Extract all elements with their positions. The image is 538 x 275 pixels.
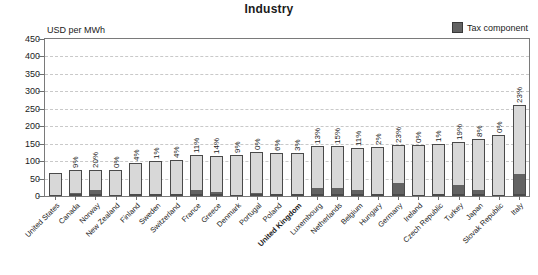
x-label-slot: Sweden bbox=[146, 199, 166, 271]
bar[interactable]: 8% bbox=[472, 139, 485, 196]
bar-slot: 6% bbox=[267, 39, 287, 196]
bar[interactable]: 15% bbox=[331, 146, 344, 196]
y-axis-tick-label: 300 bbox=[14, 86, 40, 96]
y-axis-tick-mark bbox=[38, 56, 44, 57]
x-label-slot: Czech Republic bbox=[428, 199, 448, 271]
x-axis-tick-mark bbox=[277, 196, 278, 200]
bar[interactable]: 3% bbox=[291, 153, 304, 196]
bar-tax-share-label: 0% bbox=[252, 138, 261, 150]
bar-slot: 20% bbox=[85, 39, 105, 196]
bar[interactable]: 4% bbox=[129, 163, 142, 196]
bar-tax-share-label: 15% bbox=[333, 128, 342, 144]
bar-tax-share-label: 11% bbox=[353, 130, 362, 145]
industry-energy-price-chart: Industry USD per MWh Tax component 05010… bbox=[0, 0, 538, 275]
x-axis-tick-mark bbox=[75, 196, 76, 200]
bar-tax-share-label: 23% bbox=[394, 127, 403, 143]
page-title: Industry bbox=[0, 2, 538, 16]
y-axis-tick-mark bbox=[38, 144, 44, 145]
x-label-slot: Luxembourg bbox=[307, 199, 327, 271]
bar-slot: 19% bbox=[448, 39, 468, 196]
bar-slot bbox=[45, 39, 65, 196]
bar-tax-segment bbox=[211, 192, 222, 195]
bar[interactable]: 20% bbox=[89, 170, 102, 196]
bar[interactable]: 6% bbox=[270, 153, 283, 196]
y-axis-tick-label: 50 bbox=[14, 174, 40, 184]
x-axis-tick-mark bbox=[237, 196, 238, 200]
bar-slot: 8% bbox=[469, 39, 489, 196]
x-axis-tick-mark bbox=[257, 196, 258, 200]
bar-tax-share-label: 3% bbox=[293, 139, 302, 151]
bar-slot: 1% bbox=[428, 39, 448, 196]
x-label-slot: Netherlands bbox=[327, 199, 347, 271]
bar-tax-share-label: 11% bbox=[192, 138, 201, 153]
bar[interactable]: 0% bbox=[492, 135, 505, 196]
bar[interactable]: 2% bbox=[371, 147, 384, 196]
bar-tax-segment bbox=[433, 194, 444, 195]
bar[interactable]: 11% bbox=[190, 155, 203, 196]
y-axis-unit-label: USD per MWh bbox=[47, 25, 105, 35]
bar[interactable]: 13% bbox=[311, 146, 324, 196]
bar[interactable]: 23% bbox=[392, 145, 405, 196]
x-label-slot: United States bbox=[45, 199, 65, 271]
bar-tax-segment bbox=[90, 190, 101, 195]
bar[interactable]: 4% bbox=[170, 160, 183, 196]
y-axis-tick-label: 100 bbox=[14, 156, 40, 166]
bar[interactable]: 23% bbox=[513, 105, 526, 196]
y-axis-tick-mark bbox=[38, 109, 44, 110]
x-label-slot: Belgium bbox=[348, 199, 368, 271]
bar-slot: 14% bbox=[206, 39, 226, 196]
bar[interactable] bbox=[49, 173, 62, 196]
bar-tax-segment bbox=[251, 193, 262, 195]
bar-slot: 11% bbox=[186, 39, 206, 196]
bar[interactable]: 14% bbox=[210, 156, 223, 196]
x-label-slot: New Zealand bbox=[106, 199, 126, 271]
x-axis-tick-mark bbox=[95, 196, 96, 200]
bar-tax-segment bbox=[191, 190, 202, 195]
bar[interactable]: 9% bbox=[230, 155, 243, 196]
x-axis-tick-mark bbox=[499, 196, 500, 200]
bar-slot: 9% bbox=[227, 39, 247, 196]
x-axis-tick-mark bbox=[156, 196, 157, 200]
bar-tax-share-label: 6% bbox=[272, 140, 281, 152]
bar[interactable]: 0% bbox=[250, 152, 263, 196]
bar-tax-share-label: 19% bbox=[454, 124, 463, 140]
bar-slot: 15% bbox=[327, 39, 347, 196]
bar[interactable]: 0% bbox=[412, 145, 425, 196]
y-axis-tick-label: 400 bbox=[14, 51, 40, 61]
bar-slot: 1% bbox=[146, 39, 166, 196]
bar-slot: 3% bbox=[287, 39, 307, 196]
y-axis-tick-mark bbox=[38, 161, 44, 162]
x-axis-tick-mark bbox=[317, 196, 318, 200]
x-axis-tick-mark bbox=[55, 196, 56, 200]
x-axis-tick-mark bbox=[136, 196, 137, 200]
bar-tax-share-label: 9% bbox=[232, 141, 241, 153]
bar-tax-segment bbox=[292, 194, 303, 195]
x-axis-tick-mark bbox=[479, 196, 480, 200]
x-label-slot: Slovak Republic bbox=[489, 199, 509, 271]
y-axis-tick-mark bbox=[38, 74, 44, 75]
x-axis-tick-mark bbox=[398, 196, 399, 200]
bar[interactable]: 0% bbox=[109, 170, 122, 196]
bar-tax-segment bbox=[70, 193, 81, 195]
bar-tax-share-label: 4% bbox=[172, 147, 181, 159]
bar[interactable]: 9% bbox=[69, 170, 82, 196]
y-axis-tick-label: 200 bbox=[14, 121, 40, 131]
bar-tax-share-label: 13% bbox=[313, 128, 322, 144]
y-axis-tick-mark bbox=[38, 179, 44, 180]
bar-tax-segment bbox=[453, 185, 464, 195]
bar[interactable]: 1% bbox=[432, 144, 445, 196]
bar[interactable]: 19% bbox=[452, 142, 465, 196]
bar-tax-share-label: 8% bbox=[474, 125, 483, 137]
bar-slot: 13% bbox=[307, 39, 327, 196]
bar-tax-share-label: 23% bbox=[515, 87, 524, 103]
x-label-slot: Greece bbox=[206, 199, 226, 271]
x-label-slot: Hungary bbox=[368, 199, 388, 271]
bar[interactable]: 11% bbox=[351, 148, 364, 196]
bar-slot: 2% bbox=[368, 39, 388, 196]
x-axis-tick-mark bbox=[116, 196, 117, 200]
y-axis-tick-label: 250 bbox=[14, 104, 40, 114]
bar-tax-segment bbox=[372, 194, 383, 195]
bar-series-group: 9%20%0%4%1%4%11%14%9%0%6%3%13%15%11%2%23… bbox=[45, 39, 529, 196]
bar[interactable]: 1% bbox=[149, 161, 162, 196]
bar-tax-share-label: 14% bbox=[212, 138, 221, 154]
